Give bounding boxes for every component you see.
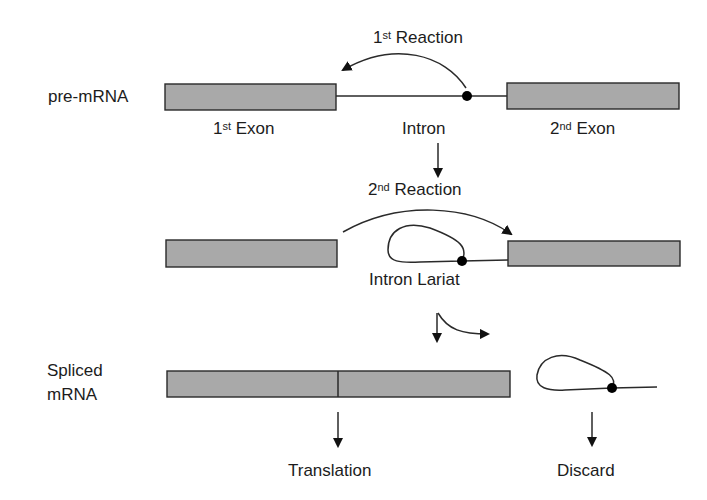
spliced-label-line2: mRNA <box>47 385 97 405</box>
pre-mrna-label: pre-mRNA <box>48 87 128 107</box>
splicing-diagram <box>0 0 707 500</box>
second-reaction-arrow <box>343 210 511 234</box>
spliced-mrna-row <box>167 356 657 397</box>
intron-lariat-loop <box>388 225 508 262</box>
second-exon-bar <box>507 83 679 109</box>
lariat-intermediate-row <box>166 210 680 267</box>
lariat-branch-dot <box>457 256 467 266</box>
first-reaction-label: 1st Reaction <box>373 28 463 48</box>
fork-arrow <box>437 313 488 341</box>
discarded-lariat-dot <box>607 383 617 393</box>
first-reaction-arrow <box>343 54 466 88</box>
intron-lariat-label: Intron Lariat <box>369 270 460 290</box>
second-reaction-label: 2nd Reaction <box>368 180 462 200</box>
second-exon-bar-2 <box>508 241 680 266</box>
branch-point-dot <box>462 91 472 101</box>
spliced-label-line1: Spliced <box>47 361 103 381</box>
first-exon-bar-2 <box>166 240 337 267</box>
discard-label: Discard <box>557 461 615 481</box>
first-exon-bar <box>165 84 336 110</box>
discarded-lariat <box>537 356 657 391</box>
first-exon-label: 1st Exon <box>213 119 275 139</box>
intron-label: Intron <box>402 119 445 139</box>
second-exon-label: 2nd Exon <box>550 119 615 139</box>
translation-label: Translation <box>288 461 371 481</box>
pre-mrna-row <box>165 54 679 110</box>
